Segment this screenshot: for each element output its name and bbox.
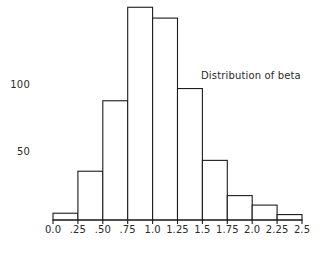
histogram-bar xyxy=(277,215,302,220)
histogram-bar xyxy=(53,213,78,220)
histogram-bar xyxy=(252,205,277,220)
histogram-bar xyxy=(78,171,103,220)
histogram-bar xyxy=(153,18,178,220)
histogram-bar xyxy=(178,89,203,220)
histogram-bar xyxy=(202,160,227,220)
histogram-bar xyxy=(128,7,153,220)
histogram-bar xyxy=(103,101,128,220)
histogram-bar xyxy=(227,196,252,220)
x-axis-label: 2.5 xyxy=(287,224,317,235)
histogram-figure: 100 50 Distribution of beta 0.0.25.50.75… xyxy=(0,0,323,254)
chart-annotation: Distribution of beta xyxy=(201,70,301,82)
plot-area xyxy=(0,0,323,254)
bar-group xyxy=(53,7,302,220)
